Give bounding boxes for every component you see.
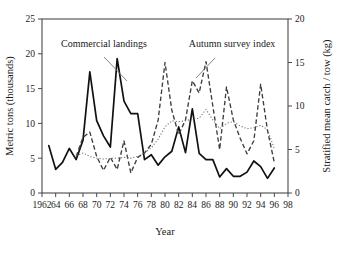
y-axis-left-title: Metric tons (thousands) [4,56,16,156]
series-line-smoothed-survey-trend [76,109,274,159]
y-tick-label: 20 [26,49,36,59]
x-tick-label: 74 [119,200,129,210]
series-line-autumn-survey-index [76,62,274,173]
x-tick-label: 98 [283,200,293,210]
x-tick-label: 80 [160,200,170,210]
x-tick-label: 84 [188,200,198,210]
y-axis-right-ticks: 05101520 [288,14,305,198]
y-axis-left-ticks: 0510152025 [26,14,43,198]
y-axis-right-title: Stratified mean catch / tow (kg) [321,39,333,173]
y-tick-label: 25 [26,14,36,24]
series-layer [49,59,274,179]
x-tick-label: 1962 [33,200,52,210]
x-tick-label: 90 [229,200,239,210]
x-tick-label: 76 [133,200,143,210]
y2-tick-label: 15 [295,58,305,68]
x-tick-label: 72 [106,200,116,210]
x-tick-label: 64 [51,200,61,210]
x-tick-label: 88 [215,200,225,210]
y-tick-label: 0 [30,188,35,198]
x-tick-label: 78 [147,200,157,210]
x-tick-label: 94 [256,200,266,210]
y-tick-label: 10 [26,119,36,129]
x-tick-label: 86 [201,200,211,210]
x-tick-label: 70 [92,200,102,210]
x-tick-label: 92 [242,200,252,210]
y2-tick-label: 10 [295,101,305,111]
y2-tick-label: 5 [295,145,300,155]
chart-figure: 1962646668707274767880828486889092949698… [0,0,340,255]
annotation-autumn-survey-index: Autumn survey index [189,38,276,49]
x-tick-label: 96 [270,200,280,210]
y2-tick-label: 20 [295,14,305,24]
y-tick-label: 15 [26,84,36,94]
line-chart: 1962646668707274767880828486889092949698… [0,0,340,255]
x-axis-ticks: 1962646668707274767880828486889092949698 [33,193,294,210]
y2-tick-label: 0 [295,188,300,198]
y-tick-label: 5 [30,154,35,164]
x-axis-title: Year [155,226,175,237]
series-line-commercial-landings [49,59,274,179]
x-tick-label: 82 [174,200,184,210]
x-tick-label: 66 [65,200,75,210]
annotation-commercial-landings: Commercial landings [61,38,147,49]
x-tick-label: 68 [78,200,88,210]
